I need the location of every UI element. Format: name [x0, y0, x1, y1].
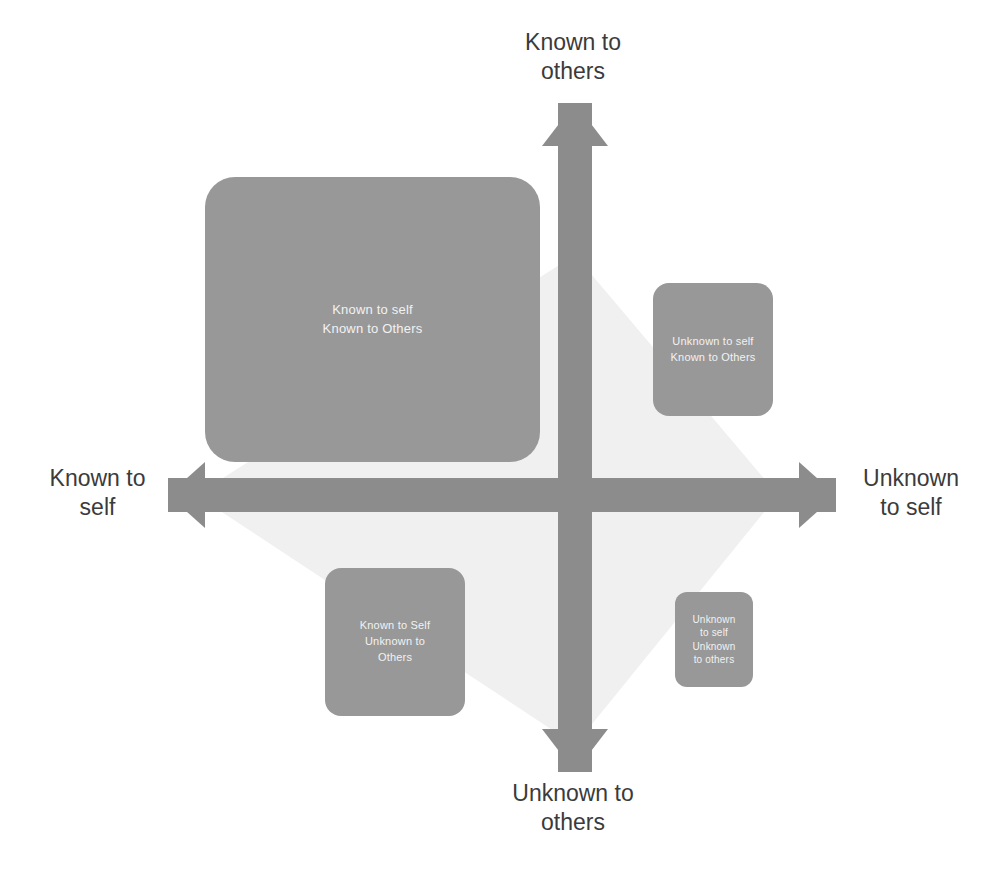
axis-label-top-line2: others — [483, 57, 663, 86]
axis-label-known-to-others: Known to others — [483, 28, 663, 87]
quadrant-unknown-line3: Unknown — [692, 640, 735, 654]
axis-label-bottom-line1: Unknown to — [473, 779, 673, 808]
horizontal-arrow-shaft — [168, 478, 836, 512]
quadrant-unknown-area[interactable]: Unknown to self Unknown to others — [675, 592, 753, 687]
quadrant-open-line1: Known to self — [332, 301, 413, 320]
right-arrow-head — [799, 462, 836, 528]
quadrant-hidden-line1: Known to Self — [360, 618, 430, 634]
axis-label-known-to-self: Known to self — [10, 464, 185, 523]
quadrant-open-line2: Known to Others — [323, 320, 423, 339]
down-arrow-head — [542, 729, 608, 772]
axis-label-top-line1: Known to — [483, 28, 663, 57]
quadrant-unknown-line2: to self — [700, 626, 728, 640]
quadrant-hidden-area[interactable]: Known to Self Unknown to Others — [325, 568, 465, 716]
up-arrow-head — [542, 103, 608, 146]
axis-label-right-line2: to self — [836, 493, 986, 522]
axis-label-left-line2: self — [10, 493, 185, 522]
quadrant-open-area[interactable]: Known to self Known to Others — [205, 177, 540, 462]
axis-label-left-line1: Known to — [10, 464, 185, 493]
vertical-arrow-shaft — [558, 103, 592, 772]
quadrant-blind-spot[interactable]: Unknown to self Known to Others — [653, 283, 773, 416]
quadrant-blind-line2: Known to Others — [671, 350, 756, 366]
axis-label-right-line1: Unknown — [836, 464, 986, 493]
axis-label-bottom-line2: others — [473, 808, 673, 837]
axis-label-unknown-to-self: Unknown to self — [836, 464, 986, 523]
quadrant-unknown-line4: to others — [694, 653, 735, 667]
johari-window-diagram: Known to self Known to Others Unknown to… — [0, 0, 986, 873]
quadrant-hidden-line3: Others — [378, 650, 412, 666]
axis-label-unknown-to-others: Unknown to others — [473, 779, 673, 838]
quadrant-unknown-line1: Unknown — [692, 613, 735, 627]
quadrant-blind-line1: Unknown to self — [672, 334, 753, 350]
quadrant-hidden-line2: Unknown to — [365, 634, 425, 650]
